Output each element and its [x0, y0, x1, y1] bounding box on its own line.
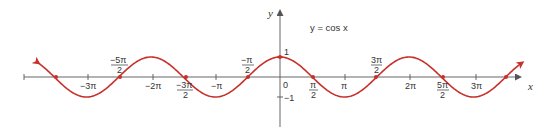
svg-text:−π: −π: [241, 55, 252, 65]
origin-label: 0: [283, 80, 288, 90]
svg-text:2: 2: [183, 90, 188, 100]
svg-text:2: 2: [245, 65, 250, 75]
equation-label: y = cos x: [310, 22, 348, 33]
x-tick-label-2pi: 2π: [405, 81, 416, 91]
svg-text:5π: 5π: [437, 80, 448, 90]
x-tick-label-3pi: 3π: [471, 81, 482, 91]
x-tick-label-negpi: −π: [211, 81, 222, 91]
svg-text:3π: 3π: [371, 55, 382, 65]
frac-3pi-2: 3π 2: [371, 55, 382, 75]
x-tick-label-pi: π: [341, 81, 347, 91]
frac-neg3pi-2: −3π 2: [176, 80, 193, 100]
svg-text:2: 2: [374, 65, 379, 75]
frac-neg5pi-2: −5π 2: [110, 55, 128, 75]
x-tick-label-neg3pi: −3π: [80, 81, 96, 91]
svg-text:2: 2: [311, 90, 316, 100]
frac-pi-2: π 2: [309, 80, 318, 100]
y-tick-label-neg1: −1: [284, 93, 294, 103]
cosine-graph: y x y = cos x 1 −1 0 −3π −2π −π π 2π 3π …: [0, 0, 545, 134]
frac-5pi-2: 5π 2: [437, 80, 449, 100]
svg-text:2: 2: [117, 65, 122, 75]
svg-text:π: π: [310, 80, 316, 90]
svg-text:−5π: −5π: [110, 55, 126, 65]
x-axis-label: x: [527, 80, 533, 92]
y-axis-label: y: [267, 7, 273, 19]
y-tick-label-1: 1: [284, 47, 289, 57]
x-tick-label-neg2pi: −2π: [145, 81, 161, 91]
svg-text:−3π: −3π: [176, 80, 192, 90]
svg-text:2: 2: [440, 90, 445, 100]
